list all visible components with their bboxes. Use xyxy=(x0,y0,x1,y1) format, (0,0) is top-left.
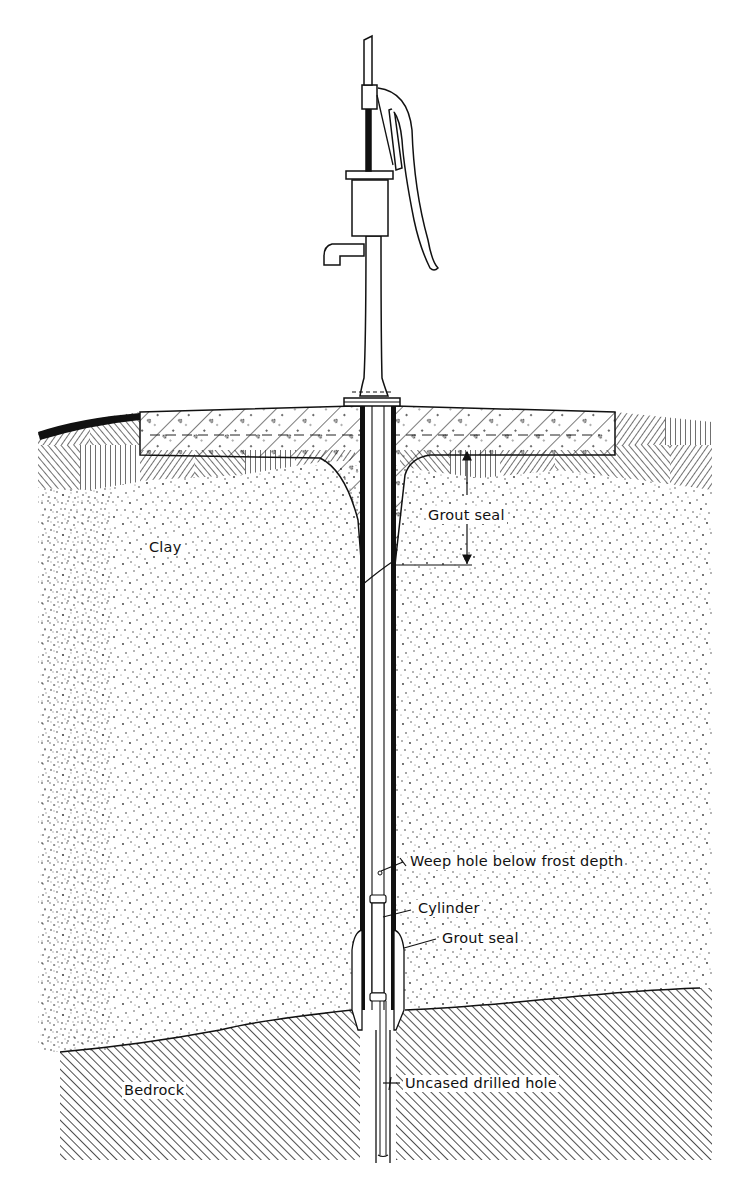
hand-pump xyxy=(324,36,438,406)
label-clay: Clay xyxy=(147,539,183,556)
label-grout-seal-bottom: Grout seal xyxy=(440,930,521,947)
label-weep-hole: Weep hole below frost depth xyxy=(408,853,625,870)
diagram-canvas xyxy=(0,0,745,1201)
label-uncased-hole: Uncased drilled hole xyxy=(403,1075,559,1092)
well-diagram: Clay Grout seal Weep hole below frost de… xyxy=(0,0,745,1201)
label-cylinder: Cylinder xyxy=(416,900,482,917)
pump-spout xyxy=(324,244,364,265)
label-grout-seal-top: Grout seal xyxy=(426,507,507,524)
label-bedrock: Bedrock xyxy=(122,1082,186,1099)
pump-head xyxy=(352,180,388,236)
